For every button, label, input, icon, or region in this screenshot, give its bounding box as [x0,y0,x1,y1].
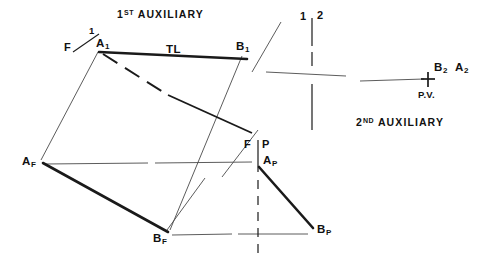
point-label-AF-base: A [22,155,31,167]
title-second-auxiliary-number: 2 [356,116,363,128]
point-label-A2: A2 [455,62,469,74]
point-label-BF-base: B [153,232,162,244]
construction-line-A1-dashed [103,54,163,92]
point-label-B2-base: B [434,61,443,73]
point-label-BF: BF [153,233,167,245]
annotation-true-length: TL [166,44,181,56]
projector-A1-AF [41,52,98,160]
point-label-A1: A1 [96,38,110,50]
annotation-point-view: P.V. [418,90,435,100]
point-label-A1-base: A [96,37,105,49]
point-label-A2-sub: 2 [464,66,469,75]
point-label-AP: AP [263,155,277,167]
fold-label-P-of-FP: P [262,139,270,150]
projector-BF-upper [167,178,205,230]
point-label-AP-base: A [263,154,272,166]
fold-label-1-of-12: 1 [300,11,307,22]
title-first-auxiliary-number: 1 [117,8,124,20]
point-label-A2-base: A [455,61,464,73]
fold-label-1-of-F1: 1 [89,26,95,36]
title-first-auxiliary: 1ST AUXILIARY [117,9,204,20]
point-label-BP-sub: P [326,228,332,237]
projector-AP-upper [222,130,258,177]
point-label-BF-sub: F [162,237,167,246]
point-label-A1-sub: 1 [105,42,110,51]
fold-label-F-of-F1: F [64,42,71,53]
title-second-auxiliary-ordinal: ND [363,117,374,124]
point-label-BP: BP [317,224,331,236]
point-label-B2: B2 [434,62,448,74]
reference-line-AF-right-b [155,162,252,163]
fold-label-2-of-12: 2 [317,10,324,21]
point-label-AF-sub: F [31,160,36,169]
point-label-B1-sub: 1 [245,45,250,54]
reference-line-BF-right-a [172,234,232,235]
reference-line-AF-right-a [45,163,148,164]
title-second-auxiliary-word: AUXILIARY [378,116,444,128]
title-first-auxiliary-word: AUXILIARY [138,8,204,20]
point-label-AF: AF [22,156,36,168]
point-label-B1-base: B [236,40,245,52]
point-label-B2-sub: 2 [443,66,448,75]
reference-line-2nd-aux-right [360,79,424,81]
point-label-B1: B1 [236,41,250,53]
object-line-AP-BP [259,167,313,228]
title-first-auxiliary-ordinal: ST [124,9,134,16]
object-line-AF-BF [43,163,168,232]
projector-B1-BF [170,56,242,230]
fold-line-1-2-diagonal [252,22,281,72]
fold-label-F-of-FP: F [244,139,251,150]
construction-line-A1-solid [168,95,252,133]
reference-line-2nd-aux-left [266,72,346,76]
technical-drawing-canvas: 1ST AUXILIARY 2ND AUXILIARY 1 F 1 2 F P … [0,0,500,276]
title-second-auxiliary: 2ND AUXILIARY [356,117,444,128]
point-label-BP-base: B [317,223,326,235]
point-label-AP-sub: P [272,159,278,168]
